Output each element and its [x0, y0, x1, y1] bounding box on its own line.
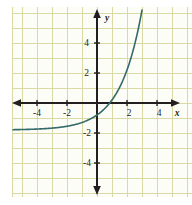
x-tick-label-neg2: -2: [63, 108, 71, 118]
x-tick-label-2: 2: [127, 108, 132, 118]
y-tick-label-2: 2: [84, 68, 89, 78]
y-tick-label-neg2: -2: [83, 128, 91, 138]
exponential-function-graph: -4 -2 2 4 4 2 -2 -4 y x: [0, 0, 192, 205]
x-axis-name-label: x: [174, 108, 180, 118]
x-tick-label-4: 4: [157, 108, 162, 118]
y-axis-name-label: y: [104, 13, 110, 23]
y-tick-label-4: 4: [84, 38, 89, 48]
coordinate-plane: -4 -2 2 4 4 2 -2 -4 y x: [0, 0, 192, 205]
y-tick-label-neg4: -4: [83, 158, 91, 168]
x-tick-label-neg4: -4: [33, 108, 41, 118]
